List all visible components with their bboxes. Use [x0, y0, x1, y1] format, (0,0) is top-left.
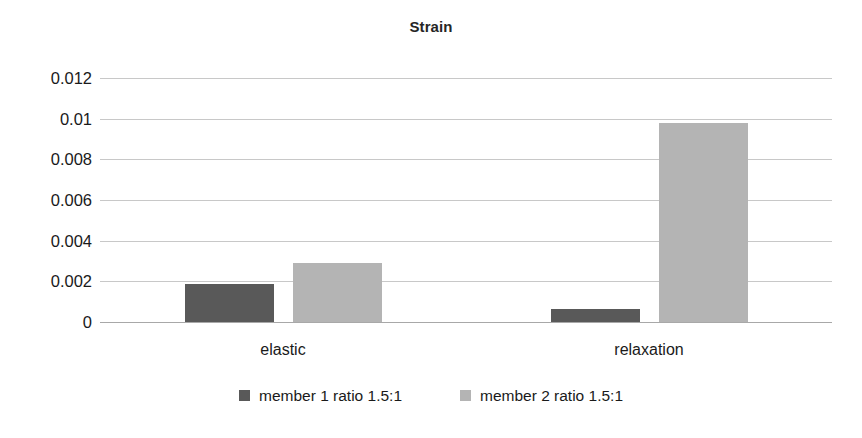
chart-legend: member 1 ratio 1.5:1member 2 ratio 1.5:1: [0, 388, 862, 404]
gridline: [100, 78, 832, 79]
legend-item[interactable]: member 2 ratio 1.5:1: [460, 388, 623, 404]
y-axis-tick-label: 0.01: [8, 111, 92, 128]
x-axis-category-label: elastic: [100, 342, 466, 358]
bar: [293, 263, 382, 322]
y-axis-tick-label: 0: [8, 314, 92, 331]
bar-chart: Strain 00.0020.0040.0060.0080.010.012 me…: [0, 0, 862, 438]
y-axis: 00.0020.0040.0060.0080.010.012: [0, 0, 92, 438]
y-axis-tick-label: 0.012: [8, 70, 92, 87]
legend-item[interactable]: member 1 ratio 1.5:1: [239, 388, 402, 404]
bar: [551, 309, 640, 322]
y-axis-tick-label: 0.008: [8, 151, 92, 168]
axis-baseline: [100, 322, 832, 323]
y-axis-tick-label: 0.002: [8, 273, 92, 290]
legend-label: member 1 ratio 1.5:1: [259, 388, 402, 404]
legend-swatch-icon: [239, 390, 250, 401]
x-axis-category-label: relaxation: [466, 342, 832, 358]
legend-swatch-icon: [460, 390, 471, 401]
y-axis-tick-label: 0.006: [8, 192, 92, 209]
gridline: [100, 119, 832, 120]
y-axis-tick-label: 0.004: [8, 233, 92, 250]
chart-title: Strain: [0, 18, 862, 35]
bar: [659, 123, 748, 322]
bar: [185, 284, 274, 322]
plot-area: [100, 78, 832, 322]
legend-label: member 2 ratio 1.5:1: [480, 388, 623, 404]
